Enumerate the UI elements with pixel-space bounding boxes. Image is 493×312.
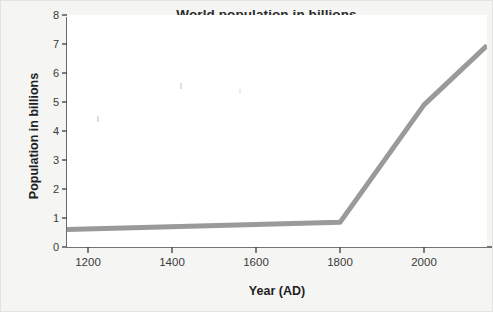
- scan-speck: [180, 83, 182, 89]
- plot-area: [67, 15, 487, 247]
- x-tick-label: 2000: [394, 257, 454, 269]
- x-tick-label: 1200: [58, 257, 118, 269]
- scan-speck: [97, 116, 99, 122]
- chart-figure: World population in billions Population …: [0, 0, 493, 312]
- data-series-line: [67, 15, 487, 247]
- scan-speck: [239, 89, 241, 93]
- x-tick-label: 1400: [142, 257, 202, 269]
- x-tick-label: 1600: [226, 257, 286, 269]
- x-tick-label: 1800: [310, 257, 370, 269]
